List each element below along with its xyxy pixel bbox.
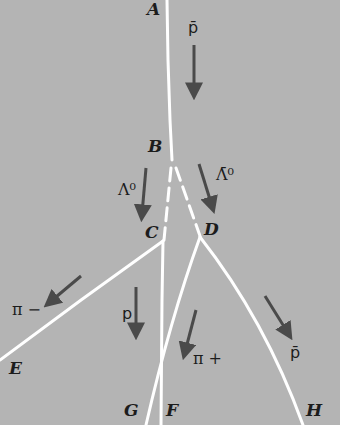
point-label-E: E [8, 358, 23, 378]
bubble-chamber-diagram: A B C D E F G H p̄ Λ⁰ Λ̄⁰ π − p π + p̄ [0, 0, 340, 430]
particle-label-lambda0: Λ⁰ [117, 180, 136, 199]
arrow-antilambda0 [199, 164, 212, 206]
tracks-layer: A B C D E F G H p̄ Λ⁰ Λ̄⁰ π − p π + p̄ [0, 0, 340, 430]
track-BD-dashed [176, 168, 200, 236]
point-label-C: C [145, 222, 159, 242]
arrow-pi-minus [50, 276, 81, 302]
arrow-lambda0 [142, 168, 146, 214]
particle-label-pi-minus: π − [12, 300, 41, 319]
arrow-pi-plus [185, 310, 196, 352]
track-CG [161, 241, 163, 425]
point-label-F: F [165, 400, 180, 420]
point-label-G: G [124, 400, 139, 420]
point-label-A: A [145, 0, 160, 19]
particle-label-antilambda0: Λ̄⁰ [215, 165, 234, 184]
particle-label-antiproton-out: p̄ [290, 343, 300, 362]
point-label-B: B [147, 136, 162, 156]
point-label-D: D [203, 219, 219, 239]
point-label-H: H [305, 400, 323, 420]
arrow-antiproton-out [265, 296, 288, 333]
track-AB [167, 0, 172, 160]
particle-label-pi-plus: π + [193, 349, 222, 368]
particle-label-proton: p [122, 304, 132, 323]
track-BC-dashed [164, 168, 171, 240]
particle-label-antiproton-in: p̄ [188, 18, 198, 37]
